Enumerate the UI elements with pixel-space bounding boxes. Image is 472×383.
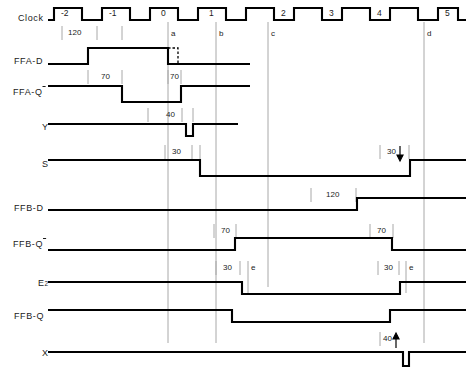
waveform-e2 (48, 282, 466, 294)
timing-diagram-root: Clock FFA-D FFA-Q Y S FFB-D FFB-Q E2 FFB… (0, 0, 472, 383)
arrow-down-s (397, 146, 403, 161)
waveform-ffa-d (48, 48, 250, 64)
signal-label-e2: E2 (38, 279, 49, 288)
waveform-s (48, 160, 466, 176)
reference-label-b: b (219, 30, 223, 38)
waveform-canvas (0, 0, 472, 383)
reference-label-e-right: e (409, 264, 413, 272)
reference-label-a: a (171, 30, 175, 38)
measurement-70-ffa-d-left: 70 (101, 73, 110, 81)
clock-number-minus1: -1 (109, 9, 117, 18)
reference-label-c: c (271, 30, 275, 38)
measurement-30-e2-left: 30 (223, 264, 232, 272)
measurement-30-s-left: 30 (172, 148, 181, 156)
signal-label-s: S (42, 160, 49, 169)
reference-label-d: d (427, 30, 431, 38)
clock-number-2: 2 (281, 9, 286, 18)
clock-number-4: 4 (377, 9, 382, 18)
signal-label-ffb-q: FFB-Q (14, 312, 44, 321)
measurement-40-y: 40 (166, 111, 175, 119)
measurement-30-e2-right: 30 (384, 264, 393, 272)
clock-number-3: 3 (329, 9, 334, 18)
waveform-ffa-qbar (48, 86, 250, 102)
ffa-d-dashed-extension (168, 48, 178, 64)
measurement-70-ffb-qbar-left: 70 (221, 227, 230, 235)
signal-label-ffb-qbar: FFB-Q (13, 240, 46, 249)
waveform-ffb-d (48, 198, 466, 210)
waveform-ffb-q (48, 310, 466, 322)
signal-label-ffa-d: FFA-D (14, 57, 43, 66)
measurement-70-ffb-qbar-right: 70 (377, 227, 386, 235)
waveform-x (48, 352, 466, 366)
measurement-40-x: 40 (383, 335, 392, 343)
waveform-ffb-qbar (48, 238, 466, 250)
measurement-120-clock: 120 (68, 29, 81, 37)
measurement-120-ffb-d: 120 (326, 191, 339, 199)
waveform-y (48, 124, 238, 136)
reference-label-e-left: e (251, 264, 255, 272)
measurement-ticks (62, 26, 409, 346)
signal-label-y: Y (42, 123, 49, 132)
measurement-70-ffa-d-right: 70 (170, 73, 179, 81)
signal-label-ffb-d: FFB-D (14, 204, 44, 213)
clock-number-0: 0 (161, 9, 166, 18)
arrow-up-x (393, 333, 399, 348)
signal-label-ffa-qbar: FFA-Q (13, 88, 46, 97)
clock-number-minus2: -2 (61, 9, 69, 18)
measurement-30-s-right: 30 (387, 148, 396, 156)
clock-number-5: 5 (445, 9, 450, 18)
signal-label-x: X (42, 349, 49, 358)
clock-number-1: 1 (209, 9, 214, 18)
signal-label-clock: Clock (18, 14, 44, 23)
